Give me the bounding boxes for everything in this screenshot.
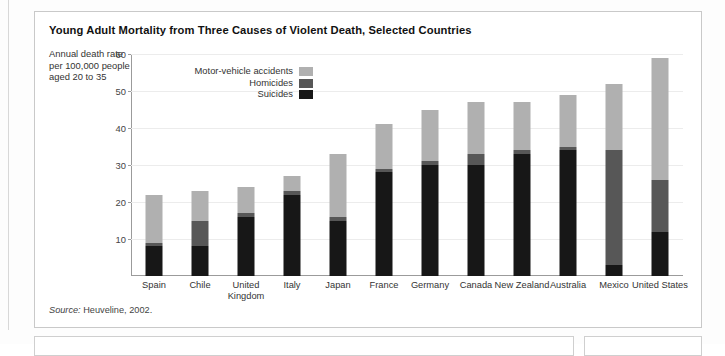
bar-segment-homicides	[238, 213, 255, 217]
below-panel-box-left	[34, 336, 574, 356]
y-tick-label: 30	[116, 160, 126, 171]
bar-segment-homicides	[422, 161, 439, 165]
plot-area: 102030405060 Motor-vehicle accidents Hom…	[131, 54, 683, 276]
y-tick-label: 20	[116, 197, 126, 208]
bar-segment-homicides	[652, 180, 669, 232]
bar-slot	[361, 54, 407, 276]
y-tick-label: 10	[116, 234, 126, 245]
bar-segment-suicides	[146, 246, 163, 276]
bar-segment-motor-vehicle-accidents	[422, 110, 439, 162]
bar-segment-motor-vehicle-accidents	[606, 84, 623, 151]
stacked-bar[interactable]	[192, 191, 209, 276]
bar-segment-homicides	[376, 169, 393, 173]
bar-segment-suicides	[238, 217, 255, 276]
x-tick-label: United States	[628, 280, 692, 291]
y-tick-label: 40	[116, 123, 126, 134]
source-text: Heuveline, 2002.	[81, 305, 153, 315]
stacked-bar[interactable]	[560, 95, 577, 276]
bar-slot	[637, 54, 683, 276]
bar-segment-motor-vehicle-accidents	[238, 187, 255, 213]
stacked-bar[interactable]	[330, 154, 347, 276]
stacked-bar[interactable]	[146, 195, 163, 276]
source-prefix: Source:	[49, 305, 81, 315]
stacked-bar[interactable]	[606, 84, 623, 276]
bar-slot	[499, 54, 545, 276]
bar-group	[131, 54, 683, 276]
bar-segment-motor-vehicle-accidents	[560, 95, 577, 147]
bar-segment-suicides	[376, 172, 393, 276]
bar-segment-suicides	[652, 232, 669, 276]
bar-segment-homicides	[284, 191, 301, 195]
bar-segment-suicides	[468, 165, 485, 276]
bar-segment-homicides	[146, 243, 163, 247]
bar-slot	[453, 54, 499, 276]
bar-segment-suicides	[330, 221, 347, 277]
stacked-bar[interactable]	[284, 176, 301, 276]
bar-segment-homicides	[330, 217, 347, 221]
bar-segment-motor-vehicle-accidents	[514, 102, 531, 150]
stacked-bar[interactable]	[514, 102, 531, 276]
stacked-bar[interactable]	[376, 124, 393, 276]
bar-slot	[545, 54, 591, 276]
bar-segment-suicides	[606, 265, 623, 276]
bar-segment-motor-vehicle-accidents	[376, 124, 393, 168]
figure-title: Young Adult Mortality from Three Causes …	[49, 24, 472, 36]
bar-segment-homicides	[468, 154, 485, 165]
bar-segment-motor-vehicle-accidents	[468, 102, 485, 154]
bar-segment-motor-vehicle-accidents	[652, 58, 669, 180]
bar-segment-motor-vehicle-accidents	[192, 191, 209, 221]
bar-segment-suicides	[560, 150, 577, 276]
bar-segment-suicides	[514, 154, 531, 276]
stacked-bar[interactable]	[422, 110, 439, 277]
stacked-bar[interactable]	[468, 102, 485, 276]
bar-slot	[223, 54, 269, 276]
bar-slot	[407, 54, 453, 276]
below-panel-box-right	[584, 336, 702, 356]
bar-slot	[177, 54, 223, 276]
bar-slot	[269, 54, 315, 276]
bar-segment-homicides	[560, 147, 577, 151]
stacked-bar[interactable]	[652, 58, 669, 276]
bar-slot	[591, 54, 637, 276]
bar-slot	[131, 54, 177, 276]
stacked-bar[interactable]	[238, 187, 255, 276]
bar-slot	[315, 54, 361, 276]
page-left-rule	[8, 0, 9, 330]
y-tick-label: 50	[116, 86, 126, 97]
y-tick-label: 60	[116, 49, 126, 60]
bar-segment-suicides	[284, 195, 301, 276]
source-note: Source: Heuveline, 2002.	[49, 305, 152, 315]
bar-segment-suicides	[192, 246, 209, 276]
bar-segment-homicides	[514, 150, 531, 154]
bar-segment-homicides	[192, 221, 209, 247]
bar-segment-motor-vehicle-accidents	[284, 176, 301, 191]
bar-segment-homicides	[606, 150, 623, 265]
bar-segment-suicides	[422, 165, 439, 276]
bar-segment-motor-vehicle-accidents	[146, 195, 163, 243]
bar-segment-motor-vehicle-accidents	[330, 154, 347, 217]
figure-panel: Young Adult Mortality from Three Causes …	[34, 11, 702, 328]
